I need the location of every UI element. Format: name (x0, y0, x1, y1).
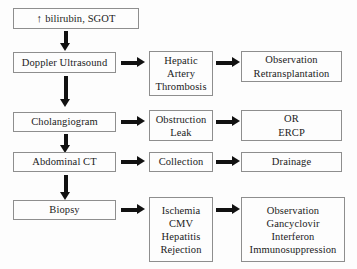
arrow-shaft (121, 208, 137, 213)
flow-arrow-right-2b (216, 116, 240, 127)
arrow-head (60, 43, 70, 51)
test-box-doppler-ultrasound: Doppler Ultrasound (13, 52, 116, 73)
action-line: Drainage (272, 155, 311, 169)
arrow-head (137, 116, 145, 126)
flow-arrow-right-4b (216, 204, 240, 215)
arrow-head (232, 204, 240, 214)
arrow-head (137, 57, 145, 67)
arrow-shaft (64, 76, 69, 100)
flowchart-diagram: ↑ bilirubin, SGOT Doppler Ultrasound Hep… (0, 0, 357, 269)
arrow-shaft (216, 208, 232, 213)
finding-line: Hepatic (164, 54, 197, 67)
action-line: ERCP (278, 126, 305, 140)
finding-line: Obstruction (156, 113, 207, 126)
flow-arrow-down-3 (60, 134, 71, 153)
action-line: Observation (265, 53, 317, 67)
flow-arrow-down-2 (60, 76, 71, 108)
finding-box-collection: Collection (149, 152, 213, 172)
flow-arrow-right-3a (121, 156, 145, 167)
arrow-shaft (216, 61, 232, 66)
finding-line: Ischemia (162, 204, 201, 217)
arrow-shaft (64, 175, 69, 193)
test-box-abdominal-ct: Abdominal CT (13, 152, 116, 172)
test-label: Biopsy (49, 203, 79, 217)
test-box-biopsy: Biopsy (13, 200, 116, 220)
test-label: Cholangiogram (31, 115, 98, 129)
action-box-observation-retransplantation: Observation Retransplantation (241, 51, 342, 82)
flow-arrow-right-1b (216, 57, 240, 68)
action-line: Retransplantation (254, 67, 330, 81)
arrow-head (137, 204, 145, 214)
arrow-shaft (216, 160, 232, 165)
finding-line: Thrombosis (155, 80, 206, 93)
arrow-shaft (121, 61, 137, 66)
arrow-head (60, 192, 70, 200)
action-box-or-ercp: OR ERCP (241, 110, 342, 141)
finding-line: Collection (159, 155, 204, 169)
arrow-head (137, 156, 145, 166)
arrow-shaft (121, 120, 137, 125)
finding-box-obstruction-leak: Obstruction Leak (149, 110, 213, 141)
test-box-cholangiogram: Cholangiogram (13, 112, 116, 132)
flow-arrow-right-2a (121, 116, 145, 127)
test-label: Abdominal CT (32, 155, 97, 169)
action-line: OR (284, 112, 299, 126)
action-box-drainage: Drainage (241, 152, 342, 172)
test-label: Doppler Ultrasound (22, 56, 108, 70)
action-line: Interferon (272, 230, 315, 243)
action-line: Immunosuppression (250, 243, 337, 256)
flow-arrow-right-1a (121, 57, 145, 68)
flow-arrow-down-4 (60, 175, 71, 200)
arrow-head (60, 99, 70, 107)
flow-arrow-right-4a (121, 204, 145, 215)
arrow-shaft (216, 120, 232, 125)
finding-box-hepatic-artery-thrombosis: Hepatic Artery Thrombosis (149, 51, 213, 96)
flow-arrow-down-1 (60, 31, 71, 51)
arrow-shaft (121, 160, 137, 165)
finding-box-ischemia-cmv-hepatitis-rejection: Ischemia CMV Hepatitis Rejection (149, 197, 213, 262)
flow-arrow-right-3b (216, 156, 240, 167)
finding-line: CMV (169, 217, 193, 230)
trigger-label: bilirubin, SGOT (45, 12, 115, 26)
action-box-observation-gancyclovir-interferon-immunosuppression: Observation Gancyclovir Interferon Immun… (241, 197, 345, 262)
up-arrow-icon: ↑ (37, 12, 43, 26)
arrow-head (232, 57, 240, 67)
trigger-box: ↑ bilirubin, SGOT (13, 8, 139, 29)
finding-line: Hepatitis (162, 230, 201, 243)
action-line: Observation (267, 204, 319, 217)
arrow-head (232, 116, 240, 126)
finding-line: Rejection (160, 243, 201, 256)
finding-line: Artery (167, 67, 195, 80)
action-line: Gancyclovir (267, 217, 320, 230)
finding-line: Leak (170, 126, 191, 139)
arrow-head (232, 156, 240, 166)
